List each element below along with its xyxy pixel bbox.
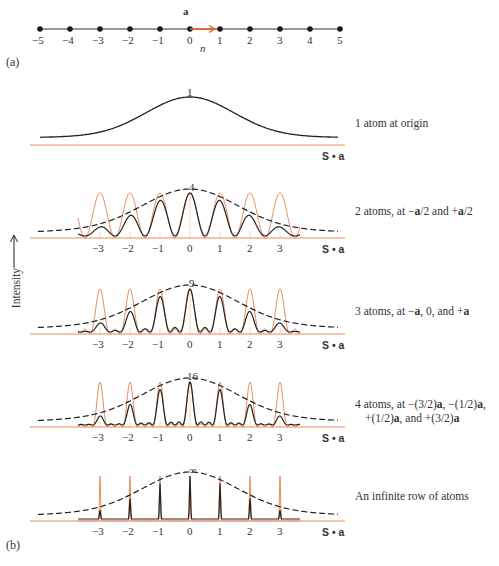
caption-1-atom: 1 atom at origin [355,116,428,130]
peak-label: 1 [187,86,193,98]
vector-a-label: a [183,5,189,17]
caption-4-atoms-line2: +(1/2)a, and +(3/2)a [365,411,459,425]
x-tick-label: 3 [277,242,283,254]
figure-canvas [0,0,499,566]
panel-5 [30,472,345,521]
x-tick-label: 1 [217,431,223,443]
peak-label: 4 [189,181,195,193]
intensity-axis-label: Intensity [10,258,22,318]
caption-infinite-row: An infinite row of atoms [355,489,469,503]
x-tick-label: −2 [122,242,134,254]
intensity-curve [78,382,300,425]
intensity-curve [78,476,300,519]
x-axis-label: S • a [322,526,344,538]
caption-4-atoms-line1: 4 atoms, at −(3/2)a, −(1/2)a, [355,397,486,411]
x-tick-label: 0 [187,431,193,443]
intensity-panels [30,97,345,521]
x-tick-label: 0 [187,525,193,537]
x-tick-label: −1 [152,525,164,537]
peak-label: 9 [189,277,195,289]
lattice-tick-label: −2 [122,34,134,46]
peak-label: 16 [187,370,198,382]
x-tick-label: 1 [217,525,223,537]
lattice-tick-label: −3 [92,34,104,46]
lattice-tick-label: 2 [247,34,253,46]
caption-3-atoms: 3 atoms, at −a, 0, and +a [355,304,469,318]
interference-function-curve [78,193,300,238]
x-tick-label: −3 [92,242,104,254]
x-tick-label: 1 [217,338,223,350]
x-tick-label: −1 [152,242,164,254]
atom-dot [217,26,223,32]
atom-dot [337,26,343,32]
x-tick-label: −1 [152,431,164,443]
atom-dot [67,26,73,32]
atom-dot [247,26,253,32]
lattice-tick-label: 1 [217,34,223,46]
envelope-curve [38,378,338,421]
lattice-tick-label: −1 [152,34,164,46]
x-tick-label: 3 [277,338,283,350]
x-tick-label: 3 [277,525,283,537]
x-tick-label: −3 [92,525,104,537]
lattice-tick-label: 3 [277,34,283,46]
panel-2 [30,189,345,238]
x-tick-label: 0 [187,242,193,254]
envelope-curve [38,285,338,328]
x-tick-label: −2 [122,525,134,537]
x-axis-label: S • a [322,150,344,162]
lattice-tick-label: −4 [62,34,74,46]
x-tick-label: −3 [92,431,104,443]
panel-3 [30,285,345,334]
x-tick-label: −3 [92,338,104,350]
intensity-curve [78,289,300,332]
x-tick-label: 0 [187,338,193,350]
peak-label: ∞ [189,464,197,476]
x-tick-label: −2 [122,338,134,350]
atom-dot [157,26,163,32]
caption-2-atoms: 2 atoms, at −a/2 and +a/2 [355,204,473,218]
x-tick-label: 1 [217,242,223,254]
x-tick-label: −2 [122,431,134,443]
x-tick-label: 2 [247,431,253,443]
axis-label-n: n [200,42,206,54]
x-axis-label: S • a [322,432,344,444]
atom-dot [37,26,43,32]
atom-dot [307,26,313,32]
lattice-tick-label: 4 [307,34,313,46]
x-axis-label: S • a [322,243,344,255]
interference-function-curve [78,289,300,334]
atom-dot [277,26,283,32]
panel-1 [30,97,345,145]
atom-dot [127,26,133,32]
form-factor-curve [40,97,338,137]
part-a-label: (a) [6,55,19,70]
x-tick-label: 2 [247,242,253,254]
lattice-tick-label: 0 [187,34,193,46]
intensity-curve [78,193,300,236]
atom-dot [97,26,103,32]
part-b-label: (b) [6,538,20,553]
envelope-curve [38,472,338,515]
x-tick-label: 2 [247,525,253,537]
lattice-tick-label: 5 [337,34,343,46]
x-tick-label: −1 [152,338,164,350]
panel-4 [30,378,345,427]
lattice-row [37,26,343,33]
interference-function-curve [78,382,300,427]
lattice-tick-label: −5 [32,34,44,46]
x-tick-label: 2 [247,338,253,350]
x-axis-label: S • a [322,339,344,351]
x-tick-label: 3 [277,431,283,443]
